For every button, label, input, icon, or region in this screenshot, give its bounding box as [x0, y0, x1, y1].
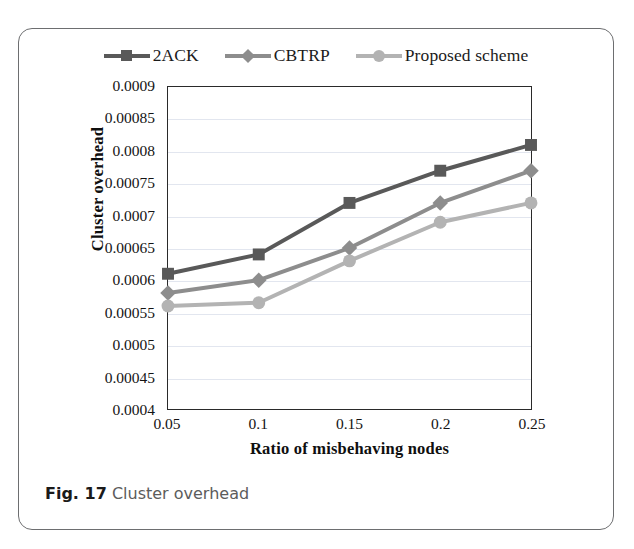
- y-tick-label: 0.0007: [112, 207, 155, 225]
- y-tick-label: 0.0005: [112, 336, 155, 354]
- y-tick-label: 0.00045: [105, 369, 155, 387]
- square-marker-icon: [121, 50, 132, 61]
- y-tick-label: 0.0004: [112, 401, 155, 419]
- data-point-marker: [525, 139, 537, 151]
- data-point-marker: [162, 300, 175, 313]
- data-point-marker: [434, 216, 447, 229]
- y-tick-label: 0.00055: [105, 304, 155, 322]
- chart-plot-wrapper: Cluster overhead 0.00090.000850.00080.00…: [19, 29, 613, 529]
- series-svg: [168, 87, 531, 409]
- data-point-marker: [162, 268, 174, 280]
- data-point-marker: [525, 196, 538, 209]
- circle-marker-icon: [373, 50, 385, 62]
- y-tick-label: 0.0008: [112, 142, 155, 160]
- y-axis-tick-labels: 0.00090.000850.00080.000750.00070.000650…: [67, 78, 155, 418]
- series-line-cbtrp: [168, 171, 531, 293]
- data-point-marker: [344, 197, 356, 209]
- figure-caption: Fig. 17 Cluster overhead: [45, 484, 249, 503]
- x-tick-label: 0.25: [518, 415, 545, 433]
- data-point-marker: [434, 165, 446, 177]
- x-tick-label: 0.15: [336, 415, 363, 433]
- data-point-marker: [251, 272, 266, 287]
- data-point-marker: [253, 248, 265, 260]
- y-tick-label: 0.0006: [112, 271, 155, 289]
- y-tick-label: 0.00075: [105, 174, 155, 192]
- data-point-marker: [160, 285, 175, 300]
- data-point-marker: [523, 163, 538, 178]
- x-axis-title: Ratio of misbehaving nodes: [167, 439, 532, 459]
- y-tick-label: 0.00065: [105, 239, 155, 257]
- data-point-marker: [433, 195, 448, 210]
- data-point-marker: [342, 240, 357, 255]
- data-point-marker: [252, 296, 265, 309]
- data-point-marker: [343, 254, 356, 267]
- figure-caption-label: Fig. 17: [45, 484, 107, 503]
- x-axis-tick-labels: 0.050.10.150.20.25: [167, 415, 532, 437]
- x-tick-label: 0.2: [431, 415, 450, 433]
- y-tick-label: 0.00085: [105, 109, 155, 127]
- figure-caption-text: Cluster overhead: [112, 484, 249, 503]
- x-tick-label: 0.05: [153, 415, 180, 433]
- x-tick-label: 0.1: [249, 415, 268, 433]
- figure-card: 2ACK CBTRP Proposed scheme Cluster overh…: [18, 28, 614, 530]
- y-tick-label: 0.0009: [112, 77, 155, 95]
- plot-area: [167, 86, 532, 410]
